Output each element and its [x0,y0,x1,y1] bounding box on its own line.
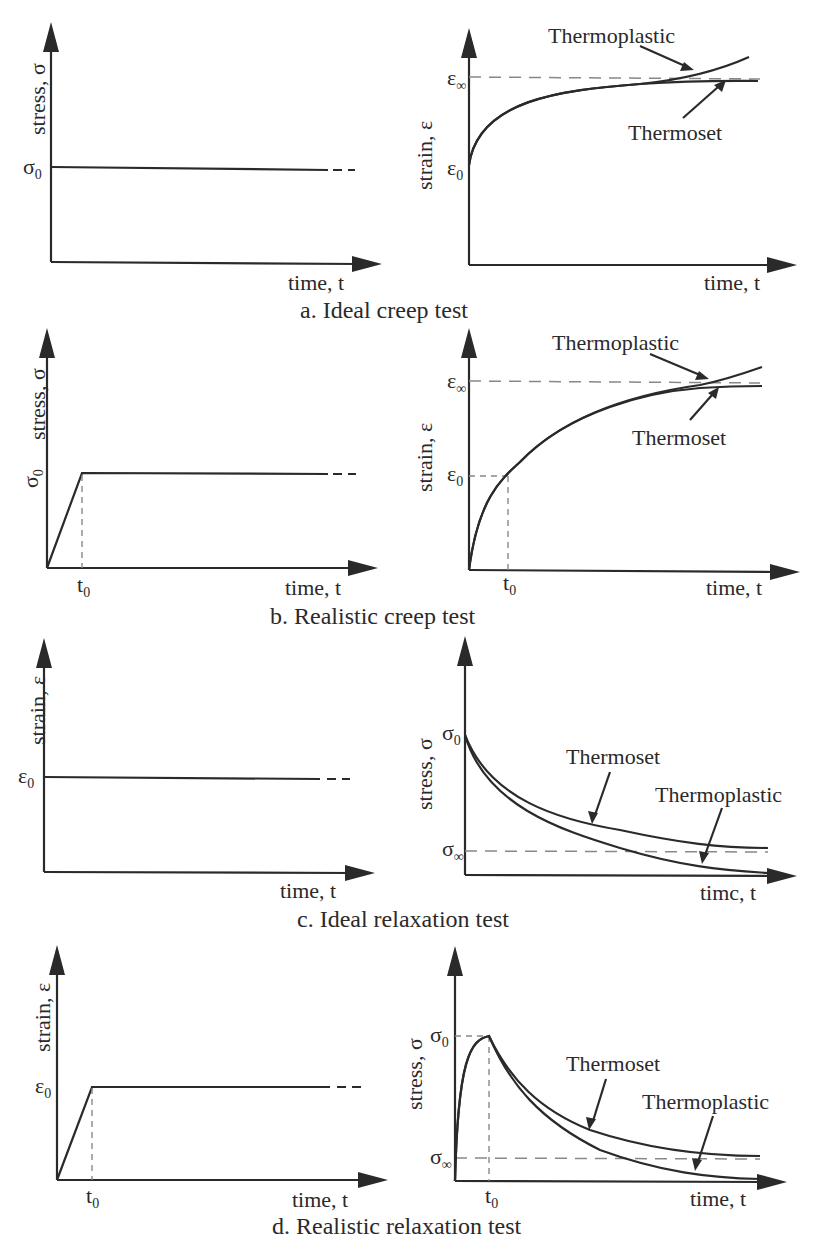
panel-b-caption: b. Realistic creep test [270,603,476,629]
thermoplastic-curve [469,57,749,165]
y-axis-label: strain, ε [30,983,55,1052]
x-axis-label: time, t [288,270,344,295]
y-axis-label: stress, σ [412,738,437,810]
x-axis-label: time, t [690,1186,746,1211]
level-label: σ0 [18,469,46,488]
t0-label: t0 [77,572,90,600]
y-axis-label: stress, σ [25,63,50,135]
y-axis-label: stress, σ [402,1038,427,1110]
epsilon-inf-label: ε∞ [447,368,466,396]
sigma-0-label: σ0 [442,720,461,748]
panel-a-right-plot: strain, ε ε∞ ε0 Thermoplastic Thermoset … [412,23,797,295]
epsilon-0-label: ε0 [447,155,463,183]
panel-d: strain, ε ε0 t0 time, t stress, σ σ0 σ∞ … [30,945,787,1239]
thermoplastic-label: Thermoplastic [548,23,675,48]
epsilon-inf-label: ε∞ [447,65,466,93]
t0-label: t0 [485,1183,498,1211]
panel-d-left-plot: strain, ε ε0 t0 time, t [30,945,388,1212]
x-axis-label: time, t [704,270,760,295]
panel-c-right-plot: stress, σ σ0 σ∞ Thermoset Thermoplastic … [412,636,797,905]
panel-d-right-plot: stress, σ σ0 σ∞ t0 Thermoset Thermoplast… [402,946,787,1211]
y-axis-label: strain, ε [25,676,50,745]
panel-a-caption: a. Ideal creep test [300,297,468,323]
panel-d-caption: d. Realistic relaxation test [272,1213,522,1239]
y-axis-label: strain, ε [412,423,437,492]
panel-c-left-plot: strain, ε ε0 time, t [18,638,375,903]
x-axis-arrow-icon [358,1172,388,1188]
sigma-inf-label: σ∞ [430,1144,452,1172]
epsilon-0-label: ε0 [447,461,463,489]
t0-label: t0 [86,1183,99,1211]
y-axis-label: strain, ε [412,121,437,190]
thermoset-label: Thermoset [632,425,726,450]
panel-a-left-plot: stress, σ σ0 time, t [23,22,382,295]
sigma-inf-label: σ∞ [442,836,464,864]
x-axis-arrow-icon [352,256,382,272]
y-axis-arrow-icon [43,22,59,52]
y-axis-arrow-icon [49,945,65,975]
y-axis-arrow-icon [447,946,463,976]
thermoset-label: Thermoset [628,120,722,145]
x-axis-arrow-icon [767,868,797,884]
level-label: σ0 [23,154,42,182]
thermoplastic-label: Thermoplastic [655,782,782,807]
panel-b-left-plot: stress, σ σ0 t0 time, t [18,328,378,600]
y-axis-label: stress, σ [25,368,50,440]
x-axis-label: time, t [285,575,341,600]
sigma-0-label: σ0 [430,1022,449,1050]
t0-label: t0 [503,570,516,598]
x-axis-arrow-icon [757,1174,787,1190]
x-axis-arrow-icon [767,257,797,273]
panel-b: stress, σ σ0 t0 time, t strain, ε ε∞ ε0 … [18,328,800,629]
thermoset-label: Thermoset [566,744,660,769]
x-axis-label: time, t [280,878,336,903]
level-label: ε0 [18,763,34,791]
x-axis-arrow-icon [770,564,800,580]
y-axis-arrow-icon [461,328,477,358]
y-axis-arrow-icon [36,638,52,668]
x-axis-label: time, t [706,575,762,600]
thermoplastic-curve [469,367,762,570]
y-axis-arrow-icon [461,28,477,58]
level-label: ε0 [35,1073,51,1101]
thermoplastic-label: Thermoplastic [642,1089,769,1114]
x-axis-label: time, t [292,1187,348,1212]
thermoset-curve [469,386,762,570]
x-axis-label: timc, t [700,880,756,905]
x-axis-arrow-icon [345,865,375,881]
x-axis-arrow-icon [348,560,378,576]
figure-canvas: stress, σ σ0 time, t strain, ε ε∞ ε0 The… [0,0,820,1259]
thermoplastic-label: Thermoplastic [552,330,679,355]
panel-a: stress, σ σ0 time, t strain, ε ε∞ ε0 The… [23,22,797,323]
y-axis-arrow-icon [39,328,55,358]
thermoset-label: Thermoset [566,1051,660,1076]
panel-b-right-plot: strain, ε ε∞ ε0 t0 Thermoplastic Thermos… [412,328,800,600]
panel-c: strain, ε ε0 time, t stress, σ σ0 σ∞ The… [18,636,797,932]
panel-c-caption: c. Ideal relaxation test [297,906,509,932]
y-axis-arrow-icon [457,636,473,666]
